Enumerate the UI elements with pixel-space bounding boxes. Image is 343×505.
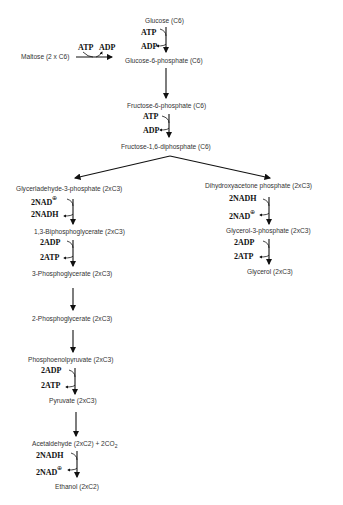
- glyceraldehyde-3-phosphate-label: Glycerladehyde-3-phosphate (2xC3): [16, 185, 122, 192]
- acetaldehyde-label: Acetaldehyde (2xC2) + 2CO2: [32, 440, 117, 449]
- adp-cofactor-5: 2ADP: [234, 238, 254, 247]
- nad-cofactor-3: 2NAD⊕: [229, 209, 255, 221]
- ethanol-label: Ethanol (2xC2): [55, 483, 99, 490]
- atp-cofactor-5: 2ATP: [234, 252, 253, 261]
- 13-biphosphoglycerate-label: 1,3-Biphosphoglycerate (2xC3): [34, 228, 125, 235]
- nadh-cofactor-3: 2NADH: [229, 194, 257, 203]
- adp-cofactor-2: ADP: [143, 126, 159, 135]
- dihydroxyacetone-phosphate-label: Dihydroxyacetone phosphate (2xC3): [205, 182, 312, 189]
- fructose-6-phosphate-label: Fructose-6-phosphate (C6): [127, 102, 206, 109]
- atp-cofactor-4: 2ATP: [41, 381, 60, 390]
- 2-phosphoglycerate-label: 2-Phosphoglycerate (2xC3): [32, 315, 112, 322]
- atp-cofactor-3: 2ATP: [40, 253, 59, 262]
- nadh-cofactor-2: 2NADH: [36, 451, 64, 460]
- nadh-cofactor-1: 2NADH: [31, 210, 59, 219]
- glycerol-3-phosphate-label: Glycerol-3-phosphate (2xC3): [226, 227, 311, 234]
- atp-cofactor-1: ATP: [141, 28, 156, 37]
- adp-cofactor-3: 2ADP: [40, 238, 60, 247]
- glycerol-label: Glycerol (2xC3): [247, 268, 293, 275]
- adp-cofactor-4: 2ADP: [41, 366, 61, 375]
- pyruvate-label: Pyruvate (2xC3): [49, 397, 97, 404]
- maltose-label: Maltose (2 x C6): [21, 53, 69, 60]
- nad-cofactor-2: 2NAD⊕: [36, 465, 62, 477]
- nad-cofactor-1: 2NAD⊕: [31, 195, 57, 207]
- atp-cofactor-maltose: ATP: [78, 43, 93, 52]
- glucose-label: Glucose (C6): [145, 17, 184, 24]
- adp-cofactor-1: ADP: [141, 42, 157, 51]
- glucose-6-phosphate-label: Glucose-6-phosphate (C6): [125, 57, 203, 64]
- phosphoenolpyruvate-label: Phosphoenolpyruvate (2xC3): [28, 356, 113, 363]
- adp-cofactor-maltose: ADP: [99, 43, 115, 52]
- fructose-16-diphosphate-label: Fructose-1,6-diphosphate (C6): [121, 143, 211, 150]
- 3-phosphoglycerate-label: 3-Phosphoglycerate (2xC3): [32, 270, 112, 277]
- atp-cofactor-2: ATP: [143, 112, 158, 121]
